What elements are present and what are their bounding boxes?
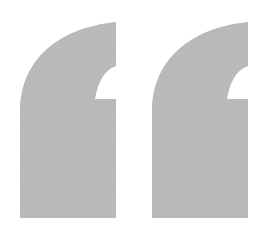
right-quote-mark <box>152 22 248 218</box>
quote-icon <box>0 0 264 230</box>
left-quote-mark <box>20 22 116 218</box>
